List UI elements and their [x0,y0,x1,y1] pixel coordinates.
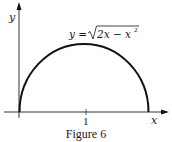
x-axis-arrow-icon [161,110,169,115]
equation-radicand: 2x − x [96,28,131,40]
y-axis-label: y [8,11,16,24]
figure-caption: Figure 6 [0,127,172,142]
x-axis-label: x [151,114,158,127]
equation-exponent: 2 [134,26,138,34]
y-axis-arrow-icon [17,2,22,10]
equation-annotation: y = 2x − x 2 [68,26,139,40]
semicircle-curve [20,44,149,112]
semicircle-plot: y x 1 y = 2x − x 2 [0,0,172,142]
x-tick-label-1: 1 [83,115,89,127]
equation-lhs: y = [68,28,87,40]
